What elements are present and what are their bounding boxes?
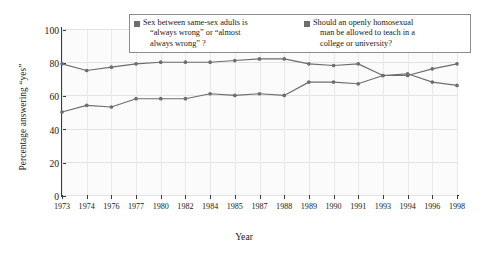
x-tick-mark-1974	[87, 195, 88, 199]
x-tick-label-1988: 1988	[276, 202, 292, 211]
series-line-1	[62, 64, 457, 112]
plot-area: 0204060801001973197419761977198019821984…	[62, 29, 458, 195]
x-tick-mark-1993	[383, 195, 384, 199]
x-tick-mark-1987	[260, 195, 261, 199]
y-tick-100: 100	[45, 20, 62, 38]
x-tick-mark-1984	[210, 195, 211, 199]
y-tick-80: 80	[49, 53, 62, 71]
y-axis-title: Percentage answering “yes”	[18, 32, 28, 202]
y-tick-60: 60	[49, 86, 62, 104]
legend-label-0: Sex between same-sex adults is “always w…	[143, 18, 248, 49]
x-tick-label-1989: 1989	[301, 202, 317, 211]
legend-entry-1: Should an openly homosexual man be allow…	[304, 18, 466, 49]
x-tick-label-1976: 1976	[103, 202, 119, 211]
data-point-s1-1976	[110, 105, 114, 109]
x-tick-mark-1988	[284, 195, 285, 199]
x-tick-label-1991: 1991	[350, 202, 366, 211]
x-tick-mark-1996	[432, 195, 433, 199]
legend-swatch-icon-1	[304, 21, 310, 27]
data-point-s0-1988	[282, 57, 286, 61]
x-tick-mark-1998	[457, 195, 458, 199]
x-tick-label-1987: 1987	[251, 202, 267, 211]
data-point-s0-1996	[430, 80, 434, 84]
data-point-s1-1987	[258, 92, 262, 96]
data-point-s1-1998	[455, 62, 459, 66]
data-point-s0-1987	[258, 57, 262, 61]
data-point-s0-1977	[134, 62, 138, 66]
data-point-s1-1985	[233, 94, 237, 98]
y-tick-40: 40	[49, 120, 62, 138]
figure-caption-cutoff	[14, 256, 454, 265]
x-tick-label-1984: 1984	[202, 202, 218, 211]
x-tick-label-1998: 1998	[449, 202, 465, 211]
data-point-s0-1982	[184, 60, 188, 64]
x-tick-mark-1977	[136, 195, 137, 199]
data-point-s1-1988	[282, 94, 286, 98]
x-tick-mark-1973	[62, 195, 63, 199]
x-tick-label-1996: 1996	[424, 202, 440, 211]
data-point-s0-1984	[208, 60, 212, 64]
data-point-s1-1977	[134, 97, 138, 101]
chart-legend: Sex between same-sex adults is “always w…	[129, 14, 471, 53]
data-point-s1-1984	[208, 92, 212, 96]
data-point-s0-1976	[110, 65, 114, 69]
data-point-s0-1980	[159, 60, 163, 64]
data-point-s0-1985	[233, 59, 237, 63]
x-tick-label-1985: 1985	[227, 202, 243, 211]
x-tick-mark-1991	[358, 195, 359, 199]
data-point-s1-1982	[184, 97, 188, 101]
data-point-s0-1989	[307, 62, 311, 66]
data-point-s0-1998	[455, 84, 459, 88]
x-tick-mark-1976	[111, 195, 112, 199]
data-point-s1-1974	[85, 104, 89, 108]
legend-label-0-line2: “always wrong” or “almost	[143, 28, 248, 38]
legend-label-1: Should an openly homosexual man be allow…	[313, 18, 415, 49]
x-tick-label-1982: 1982	[177, 202, 193, 211]
data-point-s1-1990	[332, 80, 336, 84]
legend-label-1-line1: Should an openly homosexual	[313, 18, 415, 28]
series-line-0	[62, 59, 457, 86]
data-point-s1-1980	[159, 97, 163, 101]
legend-label-1-line2: man be allowed to teach in a	[313, 28, 415, 38]
x-tick-mark-1985	[235, 195, 236, 199]
data-point-s1-1993	[381, 74, 385, 78]
x-tick-label-1993: 1993	[375, 202, 391, 211]
x-tick-label-1994: 1994	[400, 202, 416, 211]
x-axis-title: Year	[0, 231, 488, 242]
x-tick-label-1990: 1990	[325, 202, 341, 211]
x-tick-mark-1980	[161, 195, 162, 199]
data-point-s0-1990	[332, 64, 336, 68]
y-tick-20: 20	[49, 153, 62, 171]
legend-label-0-line3: always wrong” ?	[143, 39, 248, 49]
figure-canvas: Percentage answering “yes” 0204060801001…	[0, 0, 488, 265]
data-point-s0-1991	[356, 62, 360, 66]
x-tick-mark-1990	[334, 195, 335, 199]
data-point-s1-1994	[406, 74, 410, 78]
data-point-s1-1991	[356, 82, 360, 86]
data-point-s0-1974	[85, 69, 89, 73]
legend-label-1-line3: college or university?	[313, 39, 415, 49]
legend-entry-0: Sex between same-sex adults is “always w…	[134, 18, 296, 49]
x-tick-mark-1989	[309, 195, 310, 199]
x-tick-label-1977: 1977	[128, 202, 144, 211]
data-point-s1-1989	[307, 80, 311, 84]
series-layer	[62, 29, 458, 195]
x-tick-label-1980: 1980	[153, 202, 169, 211]
x-tick-mark-1982	[185, 195, 186, 199]
x-tick-mark-1994	[408, 195, 409, 199]
data-point-s0-1973	[60, 62, 64, 66]
legend-swatch-icon-0	[134, 21, 140, 27]
x-tick-label-1974: 1974	[79, 202, 95, 211]
data-point-s1-1996	[430, 67, 434, 71]
legend-label-0-line1: Sex between same-sex adults is	[143, 18, 248, 28]
x-tick-label-1973: 1973	[54, 202, 70, 211]
data-point-s1-1973	[60, 110, 64, 114]
